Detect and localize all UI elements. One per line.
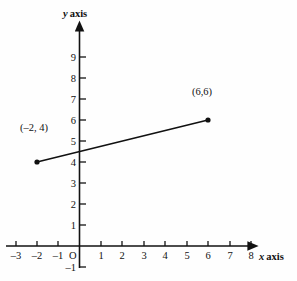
- data-series-segment: [34, 117, 210, 164]
- x-tick-label: 5: [184, 250, 189, 261]
- plot-canvas: [0, 0, 297, 281]
- x-tick-label: 8: [248, 250, 253, 261]
- y-axis-title-letter: y: [63, 8, 68, 19]
- x-axis-title-letter: x: [259, 251, 264, 262]
- point-label-left: (–2, 4): [20, 122, 48, 133]
- x-tick-label: 6: [205, 250, 210, 261]
- y-tick-label: 6: [71, 115, 76, 126]
- x-tick-label: 1: [98, 250, 103, 261]
- y-tick-label: 1: [71, 220, 76, 231]
- x-tick-label: –3: [11, 250, 22, 261]
- y-tick-label: 9: [71, 52, 76, 63]
- y-tick-label: 8: [71, 73, 76, 84]
- origin-label: O: [69, 250, 77, 261]
- y-tick-label: 4: [71, 157, 76, 168]
- x-tick-label: 3: [141, 250, 146, 261]
- x-tick-label: 2: [119, 250, 124, 261]
- data-point-marker: [205, 117, 210, 122]
- coordinate-plane-figure: –3 –2 –1 1 2 3 4 5 6 7 8 O –1 1 2 3 4 5 …: [0, 0, 297, 281]
- y-tick-label: 3: [71, 178, 76, 189]
- y-axis-title-word: axis: [70, 8, 88, 19]
- y-tick-label: 2: [71, 199, 76, 210]
- x-tick-label: 4: [162, 250, 167, 261]
- x-axis-group: [6, 241, 251, 246]
- x-axis-title-word: axis: [266, 251, 284, 262]
- x-tick-label: –1: [53, 250, 64, 261]
- y-axis-title: yaxis: [63, 8, 87, 19]
- y-axis-ticks: [80, 57, 87, 267]
- line-segment: [37, 120, 208, 162]
- y-axis-group: [80, 30, 87, 268]
- y-tick-label: –1: [66, 262, 77, 273]
- y-tick-label: 7: [71, 94, 76, 105]
- data-point-marker: [34, 159, 39, 164]
- x-tick-label: –2: [32, 250, 43, 261]
- point-label-right: (6,6): [192, 86, 212, 97]
- x-tick-label: 7: [227, 250, 232, 261]
- x-axis-title: xaxis: [259, 251, 284, 262]
- y-tick-label: 5: [71, 136, 76, 147]
